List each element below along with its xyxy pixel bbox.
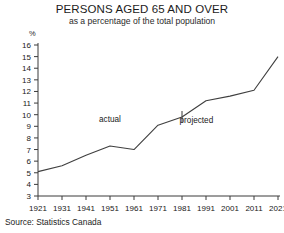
y-tick-label: 7 [27,146,32,155]
x-tick-label: 2001 [221,204,239,213]
y-tick-label: 3 [27,192,32,201]
y-tick-label: 12 [22,87,31,96]
x-axis-ticks: 1921193119411951196119711981199120012011… [29,196,284,213]
chart-source-note: Source: Statistics Canada [5,217,101,227]
annotation-label: actual [99,115,121,124]
y-tick-label: 16 [22,41,31,50]
y-tick-label: 14 [22,64,31,73]
x-tick-label: 1951 [101,204,119,213]
annotation-label: projected [180,116,214,125]
chart-annotations: actualprojected [99,115,214,125]
x-tick-label: 1921 [29,204,47,213]
x-tick-label: 1931 [53,204,71,213]
y-tick-label: 9 [27,122,32,131]
y-tick-label: 8 [27,134,32,143]
x-tick-label: 2011 [245,204,263,213]
data-series-line [38,57,278,172]
y-tick-label: 11 [23,99,32,108]
y-axis-ticks: 345678910111213141516 [22,41,38,201]
y-tick-label: 6 [27,157,32,166]
y-tick-label: 5 [27,169,32,178]
y-tick-label: 15 [22,53,31,62]
y-tick-label: 4 [27,180,32,189]
x-tick-label: 1961 [125,204,143,213]
y-tick-label: 13 [22,76,31,85]
x-tick-label: 1941 [77,204,95,213]
x-tick-label: 1981 [173,204,191,213]
x-tick-label: 1991 [197,204,215,213]
x-tick-label: 2021 [269,204,284,213]
x-tick-label: 1971 [149,204,167,213]
y-tick-label: 10 [22,111,31,120]
chart-plot-area: 345678910111213141516 192119311941195119… [0,0,284,233]
chart-figure: PERSONS AGED 65 AND OVER as a percentage… [0,0,284,233]
